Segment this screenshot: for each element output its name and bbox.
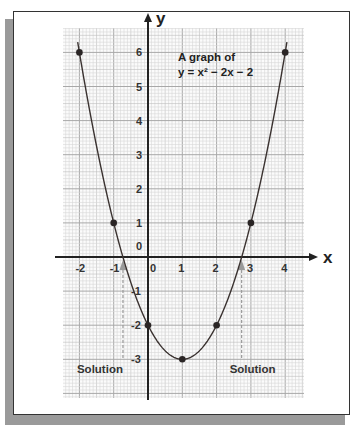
data-point bbox=[213, 322, 220, 329]
x-tick-label: -2 bbox=[75, 262, 85, 274]
y-tick-label: 6 bbox=[136, 46, 142, 58]
solution-label: Solution bbox=[77, 363, 123, 375]
data-point bbox=[282, 49, 289, 56]
x-tick-label: 2 bbox=[213, 262, 219, 274]
data-point bbox=[76, 49, 83, 56]
parabola-chart: x y -2-101234 6543210-1-2-3 SolutionSolu… bbox=[0, 0, 362, 425]
y-tick-label: -3 bbox=[131, 353, 141, 365]
data-point bbox=[179, 356, 186, 363]
x-tick-label: 4 bbox=[281, 262, 288, 274]
x-axis-label: x bbox=[323, 248, 333, 267]
graph-paper-grid bbox=[63, 28, 304, 398]
data-point bbox=[110, 220, 117, 227]
data-point bbox=[248, 220, 255, 227]
y-axis-label: y bbox=[156, 9, 166, 28]
x-tick-label: 0 bbox=[150, 262, 156, 274]
y-tick-label: -2 bbox=[131, 319, 141, 331]
x-axis-arrowhead bbox=[309, 253, 318, 261]
chart-title: A graph of bbox=[178, 51, 235, 63]
y-tick-label: 0 bbox=[136, 240, 142, 252]
x-tick-label: 3 bbox=[247, 262, 253, 274]
y-tick-label: 5 bbox=[136, 81, 142, 93]
chart-equation: y = x² − 2x − 2 bbox=[178, 66, 253, 78]
y-tick-label: 4 bbox=[136, 115, 143, 127]
y-tick-label: 2 bbox=[136, 183, 142, 195]
x-tick-label: -1 bbox=[110, 262, 120, 274]
data-point bbox=[145, 322, 152, 329]
y-tick-label: 1 bbox=[136, 217, 142, 229]
y-tick-label: 3 bbox=[136, 149, 142, 161]
x-tick-label: 1 bbox=[178, 262, 184, 274]
y-axis-arrowhead bbox=[144, 13, 152, 22]
solution-label: Solution bbox=[230, 363, 276, 375]
